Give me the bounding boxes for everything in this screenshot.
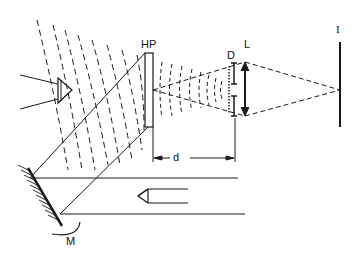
source-arrow-icon [58,78,72,103]
mirror-surface [28,168,62,226]
hologram-plate [145,53,153,127]
label-diffuser: D [227,50,235,61]
rotation-arc-icon [52,222,80,235]
label-distance: d [173,152,179,163]
reference-beam-upper [30,53,145,178]
wavefronts-right [160,62,222,118]
distance-dimension [153,118,235,162]
label-hologram-plate: HP [141,39,156,50]
diffuser-aperture [231,63,237,116]
reference-beam-lower [60,127,148,214]
label-image-plane: I [336,24,340,35]
label-mirror: M [66,236,75,247]
beam-direction-arrow-icon [138,189,188,203]
diagram-canvas [0,0,352,257]
incoming-beam-upper [20,75,58,84]
label-lens: L [244,39,250,50]
incoming-beam-lower [20,99,58,109]
